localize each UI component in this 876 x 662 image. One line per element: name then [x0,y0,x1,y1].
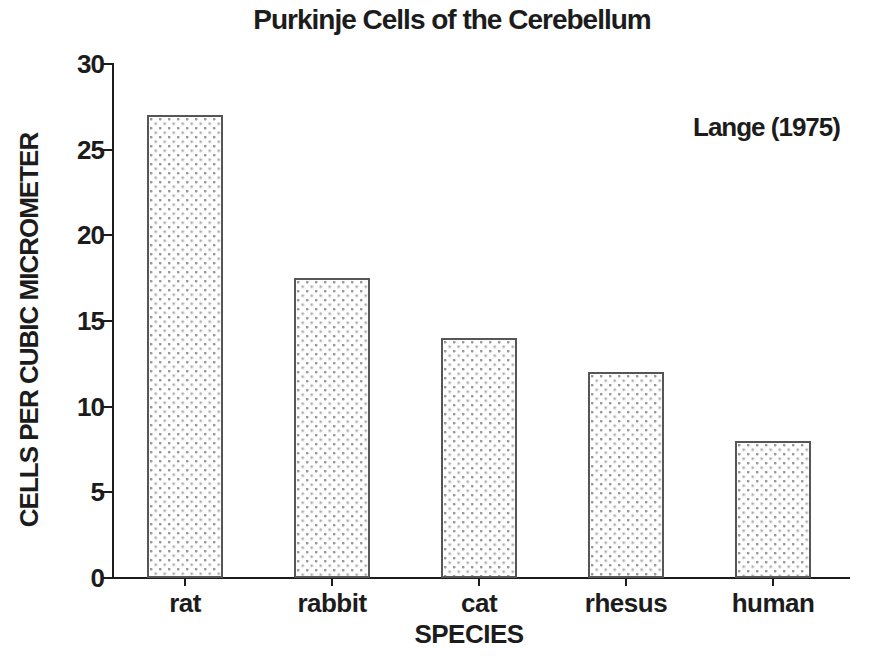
y-tick-label: 5 [44,477,104,507]
bar-human [735,441,811,578]
x-tick [478,579,480,586]
y-tick-label: 15 [44,306,104,336]
x-axis-category-label: rhesus [585,588,667,619]
x-axis-category-label: human [732,588,815,619]
y-tick-label: 30 [44,49,104,79]
figure: Purkinje Cells of the Cerebellum Lange (… [0,0,876,662]
x-axis-category-label: rat [169,588,201,619]
x-tick [184,579,186,586]
bar-rat [147,115,223,578]
x-tick [625,579,627,586]
y-axis-title: CELLS PER CUBIC MICROMETER [14,133,45,527]
x-axis-title: SPECIES [414,619,523,650]
plot-area: SPECIES 051015202530ratrabbitcatrhesushu… [112,63,850,579]
y-tick-label: 25 [44,135,104,165]
bar-rhesus [588,372,664,578]
bar-rabbit [294,278,370,578]
x-tick [772,579,774,586]
y-tick-label: 10 [44,392,104,422]
chart-title: Purkinje Cells of the Cerebellum [253,4,650,36]
x-axis-category-label: cat [461,588,497,619]
x-tick [331,579,333,586]
y-tick-label: 20 [44,220,104,250]
y-tick-label: 0 [44,563,104,593]
bar-cat [441,338,517,578]
x-axis-category-label: rabbit [297,588,366,619]
